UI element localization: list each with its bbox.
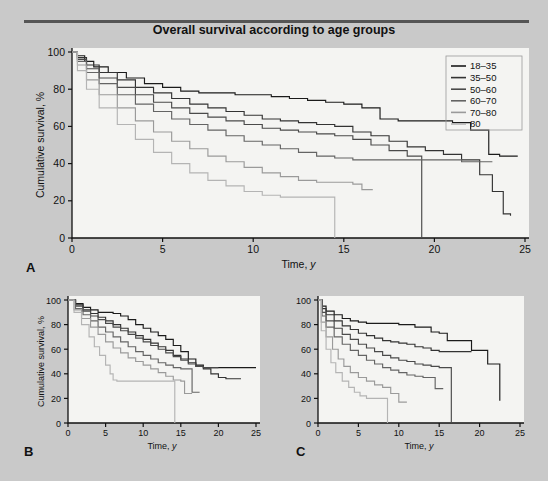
x-tick-label: 15 <box>338 243 350 255</box>
x-axis-title: Time, y <box>147 441 177 451</box>
plot-area <box>72 48 529 238</box>
panel-label-c: C <box>296 444 306 459</box>
panel-label-b: B <box>24 444 33 459</box>
x-tick-label: 0 <box>65 428 70 438</box>
y-tick-label: 20 <box>51 394 61 404</box>
y-axis-title: Cumulative survival, % <box>36 316 46 407</box>
legend-label-4: 60–70 <box>470 95 496 106</box>
y-tick-label: 100 <box>46 296 61 306</box>
chart-title: Overall survival according to age groups <box>153 23 395 37</box>
y-tick-label: 100 <box>296 296 311 306</box>
y-tick-label: 40 <box>51 369 61 379</box>
panel-a: 0204060801000510152025Time, yCumulative … <box>34 46 531 270</box>
x-axis-title: Time, y <box>404 441 434 451</box>
legend-label-2: 35–50 <box>470 72 496 83</box>
x-tick-label: 15 <box>434 428 444 438</box>
x-tick-label: 5 <box>160 243 166 255</box>
y-axis-title: Cumulative survival, % <box>34 92 46 198</box>
x-tick-label: 20 <box>429 243 441 255</box>
legend-label-1: 18–35 <box>470 60 496 71</box>
x-axis-title: Time, y <box>281 258 316 270</box>
y-tick-label: 0 <box>306 419 311 429</box>
plot-area <box>68 296 260 423</box>
x-tick-label: 20 <box>475 428 485 438</box>
x-tick-label: 10 <box>138 428 148 438</box>
x-tick-label: 0 <box>315 428 320 438</box>
y-tick-label: 100 <box>47 46 65 58</box>
x-tick-label: 0 <box>69 243 75 255</box>
x-tick-label: 15 <box>176 428 186 438</box>
y-tick-label: 60 <box>301 345 311 355</box>
x-tick-label: 25 <box>515 428 525 438</box>
figure-canvas: Overall survival according to age groups… <box>0 0 548 481</box>
y-tick-label: 80 <box>53 83 65 95</box>
y-tick-label: 20 <box>53 194 65 206</box>
y-tick-label: 40 <box>301 369 311 379</box>
y-tick-label: 0 <box>56 419 61 429</box>
y-tick-label: 80 <box>51 320 61 330</box>
panel-label-a: A <box>26 260 36 275</box>
x-tick-label: 10 <box>394 428 404 438</box>
x-tick-label: 25 <box>519 243 531 255</box>
x-tick-label: 5 <box>103 428 108 438</box>
x-tick-label: 20 <box>213 428 223 438</box>
y-tick-label: 0 <box>59 232 65 244</box>
x-tick-label: 5 <box>356 428 361 438</box>
legend-label-6: 80 <box>470 118 481 129</box>
legend-label-5: 70–80 <box>470 107 496 118</box>
plot-area <box>318 296 524 423</box>
y-tick-label: 20 <box>301 394 311 404</box>
y-tick-label: 40 <box>53 157 65 169</box>
legend-label-3: 50–60 <box>470 84 496 95</box>
y-tick-label: 80 <box>301 320 311 330</box>
x-tick-label: 25 <box>251 428 261 438</box>
x-tick-label: 10 <box>247 243 259 255</box>
figure-root: Overall survival according to age groups… <box>0 0 548 481</box>
y-tick-label: 60 <box>53 120 65 132</box>
y-tick-label: 60 <box>51 345 61 355</box>
